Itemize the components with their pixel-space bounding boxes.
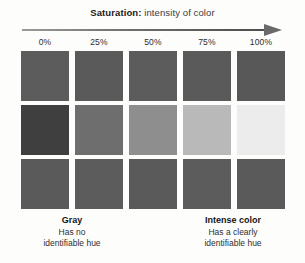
- swatch: [237, 159, 285, 209]
- caption-gray-line2: identifiable hue: [8, 238, 136, 249]
- swatch: [237, 105, 285, 155]
- swatch: [75, 51, 123, 101]
- figure-title-strong: Saturation:: [90, 7, 141, 18]
- saturation-diagram: Saturation: intensity of color 0% 25% 50…: [0, 0, 305, 263]
- swatch: [183, 105, 231, 155]
- swatch: [21, 51, 69, 101]
- swatch: [75, 105, 123, 155]
- caption-intense-color: Intense color Has a clearly identifiable…: [169, 215, 297, 249]
- column-labels: 0% 25% 50% 75% 100%: [18, 37, 288, 47]
- figure-title-rest: intensity of color: [142, 7, 215, 18]
- swatch: [129, 159, 177, 209]
- caption-gray: Gray Has no identifiable hue: [8, 215, 136, 249]
- right-arrow-icon: [264, 24, 282, 36]
- column-label-4: 100%: [234, 37, 288, 47]
- swatch-row: [21, 159, 285, 209]
- swatch: [183, 159, 231, 209]
- swatch: [237, 51, 285, 101]
- figure-title: Saturation: intensity of color: [0, 7, 305, 18]
- swatch: [21, 159, 69, 209]
- swatch: [183, 51, 231, 101]
- caption-intense-line1: Has a clearly: [169, 227, 297, 238]
- column-label-2: 50%: [126, 37, 180, 47]
- caption-row: Gray Has no identifiable hue Intense col…: [0, 215, 305, 249]
- column-label-3: 75%: [180, 37, 234, 47]
- column-label-1: 25%: [72, 37, 126, 47]
- caption-intense-title: Intense color: [169, 215, 297, 226]
- caption-gray-line1: Has no: [8, 227, 136, 238]
- swatch-grid: [21, 51, 285, 213]
- caption-intense-line2: identifiable hue: [169, 238, 297, 249]
- column-label-0: 0%: [18, 37, 72, 47]
- swatch: [75, 159, 123, 209]
- saturation-axis-arrow: [22, 24, 284, 36]
- swatch: [129, 105, 177, 155]
- swatch: [129, 51, 177, 101]
- arrow-shaft: [22, 29, 266, 31]
- swatch: [21, 105, 69, 155]
- swatch-row: [21, 51, 285, 101]
- swatch-row: [21, 105, 285, 155]
- caption-gray-title: Gray: [8, 215, 136, 226]
